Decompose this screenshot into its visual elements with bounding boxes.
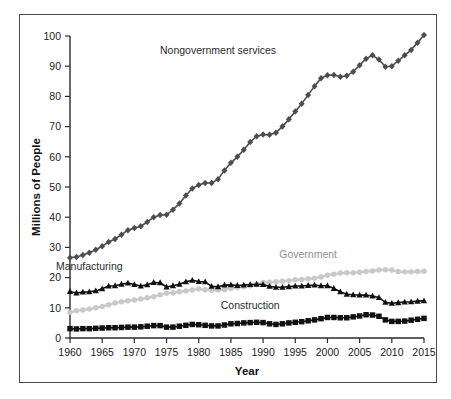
data-point-square	[344, 315, 349, 320]
y-tick-label: 100	[43, 30, 61, 42]
data-point-square	[209, 323, 214, 328]
data-point-square	[190, 322, 195, 327]
data-point-square	[318, 316, 323, 321]
data-point-diamond	[80, 252, 86, 259]
data-point-circle	[338, 270, 343, 275]
data-point-circle	[357, 269, 362, 274]
y-tick-label: 90	[49, 60, 61, 72]
data-point-circle	[280, 278, 285, 283]
series-line-nongovernment-services	[70, 35, 424, 258]
data-point-circle	[318, 274, 323, 279]
x-tick-label: 1980	[187, 346, 211, 358]
data-point-circle	[383, 267, 388, 272]
data-point-square	[112, 325, 117, 330]
data-point-square	[80, 326, 85, 331]
data-point-square	[363, 312, 368, 317]
x-tick-label: 1985	[219, 346, 243, 358]
data-point-diamond	[267, 132, 273, 139]
data-point-square	[93, 326, 98, 331]
data-point-circle	[363, 269, 368, 274]
data-point-triangle	[189, 277, 195, 283]
data-point-square	[350, 314, 355, 319]
y-tick-label: 70	[49, 120, 61, 132]
data-point-square	[106, 325, 111, 330]
data-point-square	[254, 320, 259, 325]
chart-axes	[70, 36, 424, 338]
data-point-square	[138, 324, 143, 329]
data-point-circle	[202, 287, 207, 292]
data-point-square	[241, 320, 246, 325]
x-axis-title: Year	[235, 365, 260, 377]
x-tick-label: 2015	[412, 346, 436, 358]
data-point-circle	[350, 270, 355, 275]
data-point-circle	[415, 269, 420, 274]
data-point-circle	[151, 294, 156, 299]
data-point-square	[312, 317, 317, 322]
data-point-square	[267, 321, 272, 326]
data-point-square	[338, 315, 343, 320]
data-point-circle	[396, 269, 401, 274]
data-point-circle	[183, 288, 188, 293]
data-point-square	[145, 323, 150, 328]
data-point-circle	[80, 307, 85, 312]
data-point-square	[396, 319, 401, 324]
data-point-circle	[74, 308, 79, 313]
y-axis-ticks: 0102030405060708090100	[43, 30, 70, 344]
data-point-circle	[299, 277, 304, 282]
data-point-diamond	[131, 225, 137, 232]
data-point-circle	[286, 278, 291, 283]
data-point-square	[132, 324, 137, 329]
data-point-square	[222, 322, 227, 327]
series-construction	[67, 312, 426, 332]
data-point-circle	[145, 295, 150, 300]
data-point-square	[357, 313, 362, 318]
data-point-square	[87, 326, 92, 331]
data-point-circle	[132, 297, 137, 302]
y-axis-title: Millions of People	[30, 138, 42, 236]
data-point-square	[299, 319, 304, 324]
data-point-square	[408, 317, 413, 322]
data-point-square	[260, 320, 265, 325]
data-point-square	[228, 321, 233, 326]
data-point-circle	[196, 286, 201, 291]
data-point-circle	[119, 299, 124, 304]
data-point-square	[383, 317, 388, 322]
data-point-diamond	[324, 72, 330, 79]
data-point-square	[389, 319, 394, 324]
data-point-square	[119, 325, 124, 330]
data-point-circle	[408, 269, 413, 274]
data-point-circle	[389, 267, 394, 272]
data-point-triangle	[67, 288, 73, 294]
data-point-circle	[312, 275, 317, 280]
y-tick-label: 0	[55, 332, 61, 344]
y-tick-label: 10	[49, 302, 61, 314]
data-point-circle	[325, 272, 330, 277]
data-point-diamond	[157, 212, 163, 219]
data-point-circle	[421, 269, 426, 274]
data-point-circle	[87, 306, 92, 311]
data-point-square	[177, 323, 182, 328]
data-point-square	[183, 323, 188, 328]
x-axis-ticks: 1960196519701975198019851990199520002005…	[58, 338, 436, 358]
data-point-square	[202, 323, 207, 328]
data-point-square	[74, 326, 79, 331]
data-point-square	[376, 314, 381, 319]
x-tick-label: 1975	[155, 346, 179, 358]
data-point-square	[331, 315, 336, 320]
data-point-circle	[138, 296, 143, 301]
data-point-square	[370, 312, 375, 317]
data-point-square	[196, 322, 201, 327]
data-point-square	[325, 315, 330, 320]
series-nongovernment-services	[67, 32, 427, 261]
data-point-square	[305, 318, 310, 323]
data-point-square	[151, 323, 156, 328]
data-point-circle	[106, 302, 111, 307]
data-point-diamond	[337, 74, 343, 81]
data-point-diamond	[331, 72, 337, 79]
y-tick-label: 60	[49, 151, 61, 163]
data-point-diamond	[209, 180, 215, 187]
data-point-square	[273, 322, 278, 327]
data-point-circle	[67, 310, 72, 315]
y-tick-label: 40	[49, 211, 61, 223]
data-point-circle	[222, 287, 227, 292]
